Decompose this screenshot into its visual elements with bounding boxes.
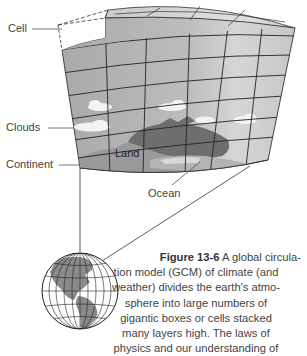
continent-label: Continent bbox=[6, 158, 53, 170]
figure-number: Figure 13-6 bbox=[160, 251, 220, 263]
caption-line-7: physics and our understanding of bbox=[91, 341, 301, 356]
cell-label: Cell bbox=[8, 22, 27, 34]
caption-line-5: gigantic boxes or cells stacked bbox=[91, 311, 301, 326]
clouds-label: Clouds bbox=[6, 121, 40, 133]
caption-line-3: weather) divides the earth's atmo- bbox=[91, 280, 301, 295]
caption-line-1: Figure 13-6 A global circula- bbox=[91, 250, 301, 265]
land-label: Land bbox=[115, 147, 139, 159]
caption-line-4: sphere into large numbers of bbox=[91, 296, 301, 311]
ocean-label: Ocean bbox=[148, 187, 180, 199]
caption-line-6: many layers high. The laws of bbox=[91, 326, 301, 341]
caption-line-2: tion model (GCM) of climate (and bbox=[91, 265, 301, 280]
figure-caption: Figure 13-6 A global circula- tion model… bbox=[91, 250, 301, 356]
